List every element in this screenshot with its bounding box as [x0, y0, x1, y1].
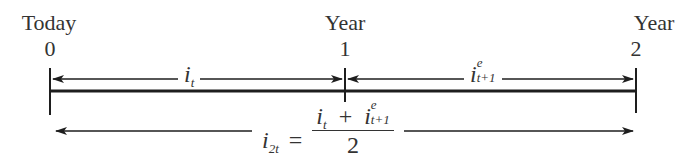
- numerator-term-2-sub: t+1: [371, 113, 390, 126]
- fraction: it + iet+1 2: [312, 104, 393, 157]
- fraction-numerator: it + iet+1: [312, 104, 393, 131]
- point-0-value: 0: [45, 38, 56, 60]
- segment-2-label-base: i: [470, 61, 477, 87]
- equals-sign: =: [289, 128, 303, 152]
- segment-1-label-base: i: [184, 61, 191, 87]
- point-0-caption: Today: [22, 12, 77, 34]
- fraction-denominator: 2: [347, 131, 359, 157]
- numerator-term-1-sub: t: [323, 117, 327, 132]
- segment-2-label: iet+1: [464, 62, 502, 86]
- numerator-term-1-base: i: [316, 103, 323, 129]
- point-2-caption: Year: [634, 12, 675, 34]
- span-equation: i2t = it + iet+1 2: [252, 104, 404, 157]
- plus-sign: +: [339, 103, 353, 129]
- numerator-term-2-sup: e: [371, 98, 390, 111]
- segment-2-label-sub: t+1: [477, 71, 496, 84]
- point-2-value: 2: [631, 38, 642, 60]
- segment-1-label: it: [178, 62, 200, 86]
- point-1-value: 1: [340, 38, 351, 60]
- numerator-term-2-base: i: [364, 103, 371, 129]
- point-1-caption: Year: [325, 12, 366, 34]
- segment-1-label-sub: t: [191, 75, 195, 90]
- span-lhs-base: i: [262, 127, 269, 153]
- segment-2-label-sup: e: [477, 56, 496, 69]
- span-lhs-sub: 2t: [269, 141, 279, 156]
